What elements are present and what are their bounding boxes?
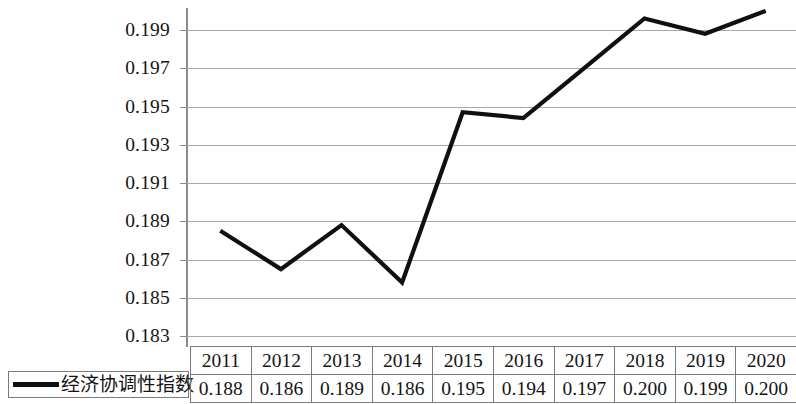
y-axis-tick-label: 0.183 (112, 326, 170, 346)
table-row: 0.1880.1860.1890.1860.1950.1940.1970.200… (191, 375, 796, 403)
y-axis-tick-mark (180, 221, 187, 222)
y-axis-tick-mark (180, 107, 187, 108)
table-data-cell: 0.188 (191, 375, 252, 403)
table-header-cell: 2018 (615, 347, 676, 375)
y-axis-tick-mark (180, 183, 187, 184)
y-axis-tick-label: 0.187 (112, 250, 170, 270)
y-axis-tick-mark (180, 30, 187, 31)
y-axis-tick-label: 0.199 (112, 20, 170, 40)
table-data-cell: 0.199 (675, 375, 736, 403)
y-axis-tick-mark (180, 145, 187, 146)
table-header-cell: 2016 (493, 347, 554, 375)
table-data-cell: 0.186 (251, 375, 312, 403)
y-axis-tick-label: 0.185 (112, 288, 170, 308)
chart-figure: 0.1990.1970.1950.1930.1910.1890.1870.185… (0, 0, 796, 404)
y-axis-tick-label: 0.189 (112, 211, 170, 231)
plot-inner (187, 0, 796, 347)
table-data-cell: 0.194 (493, 375, 554, 403)
y-axis-tick-label: 0.193 (112, 135, 170, 155)
legend-line-marker-icon (13, 382, 59, 387)
table-header-cell: 2012 (251, 347, 312, 375)
table-data-cell: 0.200 (615, 375, 676, 403)
table-header-cell: 2019 (675, 347, 736, 375)
table-data-cell: 0.195 (433, 375, 494, 403)
legend-and-data-table: 经济协调性指数 20112012201320142015201620172018… (0, 346, 796, 404)
chart-plot-region: 0.1990.1970.1950.1930.1910.1890.1870.185… (0, 0, 796, 347)
table-header-cell: 2015 (433, 347, 494, 375)
legend: 经济协调性指数 (8, 371, 189, 398)
y-axis-tick-mark (180, 260, 187, 261)
y-axis-tick-mark (180, 336, 187, 337)
table-header-cell: 2020 (736, 347, 796, 375)
y-axis-tick-labels: 0.1990.1970.1950.1930.1910.1890.1870.185… (112, 0, 170, 347)
table-header-cell: 2011 (191, 347, 252, 375)
series-polyline (220, 11, 765, 283)
table-header-cell: 2013 (312, 347, 373, 375)
y-axis-tick-label: 0.191 (112, 173, 170, 193)
data-table: 2011201220132014201520162017201820192020… (190, 346, 796, 403)
y-axis-tick-label: 0.197 (112, 58, 170, 78)
table-data-cell: 0.197 (554, 375, 615, 403)
table-data-cell: 0.189 (312, 375, 373, 403)
y-axis-tick-mark (180, 68, 187, 69)
line-series-economic-coordination-index (187, 0, 796, 347)
table-data-cell: 0.186 (372, 375, 433, 403)
y-axis-tick-label: 0.195 (112, 97, 170, 117)
table-data-cell: 0.200 (736, 375, 796, 403)
y-axis-tick-mark (180, 298, 187, 299)
table-header-cell: 2017 (554, 347, 615, 375)
legend-label: 经济协调性指数 (61, 375, 194, 394)
table-header-row: 2011201220132014201520162017201820192020 (191, 347, 796, 375)
table-header-cell: 2014 (372, 347, 433, 375)
